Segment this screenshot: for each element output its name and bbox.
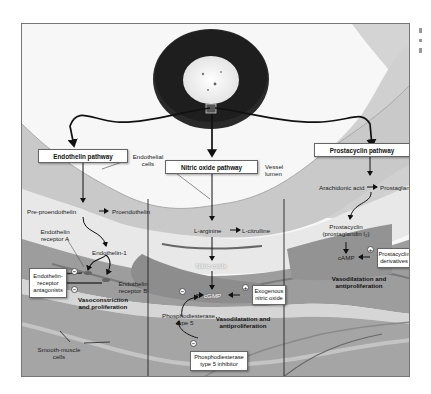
prostacyclin-pathway-box: Prostacyclin pathway xyxy=(314,143,410,157)
endothelial-cells-label: Endothelial cells xyxy=(126,153,170,167)
prostacyclin-vasodilatation-effect-label: Vasodilatation and antiproliferation xyxy=(330,275,388,289)
inhibit-sign-icon: − xyxy=(71,286,78,293)
inhibit-sign-icon: − xyxy=(190,340,197,347)
camp-label: cAMP xyxy=(338,254,355,261)
arachidonic-acid-label: Arachidonic acid xyxy=(319,184,364,191)
vasoconstriction-text: Vasoconstriction and proliferation xyxy=(78,296,128,310)
inhibit-sign-icon: − xyxy=(71,268,78,275)
diagram-frame: Vessel lumen Endothelial cells Endotheli… xyxy=(21,23,410,377)
no-effect-text: Vasodilatation and antiproliferation xyxy=(216,315,271,329)
endothelin-pathway-title: Endothelin pathway xyxy=(53,153,112,160)
endothelial-cells-text: Endothelial cells xyxy=(133,153,164,167)
pde5-text: Phosphodiesterase type 5 xyxy=(162,312,215,326)
inhibit-sign-icon: − xyxy=(179,288,186,295)
pde5-label: Phosphodiesterase type 5 xyxy=(162,312,208,326)
nitric-oxide-pathway-box: Nitric oxide pathway xyxy=(165,160,258,174)
stimulate-sign-icon: + xyxy=(367,246,374,253)
nitric-oxide-label: Nitric oxide xyxy=(196,262,227,269)
receptor-a-text: Endothelin receptor A xyxy=(40,228,69,242)
nitric-oxide-pathway-title: Nitric oxide pathway xyxy=(181,164,242,171)
smooth-muscle-cells-label: Smooth-muscle cells xyxy=(36,346,82,360)
stimulate-sign-icon: + xyxy=(242,284,249,291)
prostacyclin-pathway-title: Prostacyclin pathway xyxy=(330,147,394,154)
prostacyclin-text: Prostacyclin (prostaglandin I₂) xyxy=(322,223,369,237)
l-arginine-label: L-arginine xyxy=(194,227,222,234)
endothelin-receptor-a-label: Endothelin receptor A xyxy=(36,228,74,242)
endothelin-pathway-box: Endothelin pathway xyxy=(38,149,128,163)
vessel-lumen-text: Vessel lumen xyxy=(265,163,291,177)
endothelin-1-label: Endothelin-1 xyxy=(92,249,127,256)
vessel-lumen-label: Vessel lumen xyxy=(265,163,291,177)
prostacyclin-label: Prostacyclin (prostaglandin I₂) xyxy=(318,223,374,237)
page-edge-mark xyxy=(419,28,422,33)
pde5-inhibitor-box: Phosphodiesterase type 5 inhibitor xyxy=(190,351,248,371)
endothelin-receptor-b-label: Endothelin receptor B xyxy=(118,280,148,294)
receptor-b-text: Endothelin receptor B xyxy=(118,280,147,294)
prostacyclin-derivatives-box: Prostacyclin derivatives xyxy=(377,248,410,268)
pre-proendothelin-label: Pre-proendothelin xyxy=(27,208,76,215)
smooth-muscle-text: Smooth-muscle cells xyxy=(38,346,81,360)
prostaglandin-i2-label: Prostaglandin I₂ xyxy=(380,184,410,191)
derivatives-text: Prostacyclin derivatives xyxy=(378,251,410,265)
exogenous-nitric-oxide-box: Exogenous nitric oxide xyxy=(252,285,286,305)
page-edge-mark xyxy=(419,48,422,53)
vasoconstriction-effect-label: Vasoconstriction and proliferation xyxy=(75,296,131,310)
page-edge-mark xyxy=(419,39,422,42)
no-vasodilatation-effect-label: Vasodilatation and antiproliferation xyxy=(214,315,272,329)
l-citrulline-label: L-citrulline xyxy=(242,227,270,234)
antagonists-text: Endothelin-receptor antagonists xyxy=(30,273,66,294)
cgmp-label: cGMP xyxy=(204,292,221,299)
proendothelin-label: Proendothelin xyxy=(112,208,150,215)
pde5-inhibitor-text: Phosphodiesterase type 5 inhibitor xyxy=(191,354,247,368)
endothelin-receptor-antagonists-box: Endothelin-receptor antagonists xyxy=(29,268,67,298)
exogenous-text: Exogenous nitric oxide xyxy=(253,288,285,302)
prostacyclin-effect-text: Vasodilatation and antiproliferation xyxy=(332,275,387,289)
